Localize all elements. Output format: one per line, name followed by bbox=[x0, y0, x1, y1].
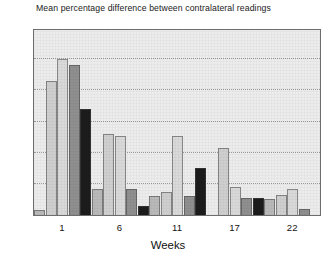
x-axis-tick-label: 17 bbox=[222, 222, 248, 233]
bar-chart-figure: Mean percentage difference between contr… bbox=[0, 0, 336, 270]
x-axis-tick-label: 6 bbox=[106, 222, 132, 233]
x-axis-tick-label: 1 bbox=[49, 222, 75, 233]
x-axis-tick-label: 11 bbox=[164, 222, 190, 233]
x-axis-tick-label: 22 bbox=[279, 222, 305, 233]
x-axis: 16111722 bbox=[0, 0, 336, 270]
x-axis-label: Weeks bbox=[0, 239, 336, 251]
